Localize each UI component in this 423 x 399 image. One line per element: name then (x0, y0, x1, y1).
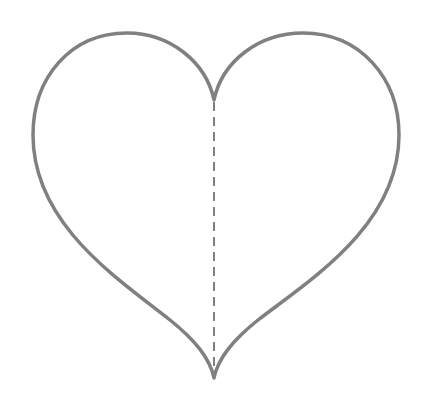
heart-svg (0, 0, 423, 399)
heart-diagram (0, 0, 423, 399)
heart-outline (33, 33, 399, 378)
